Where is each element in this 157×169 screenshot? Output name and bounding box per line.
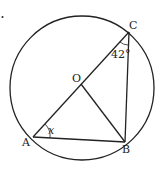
stray-dot <box>2 16 4 18</box>
label-O: O <box>72 72 81 85</box>
angle-arc-c <box>120 42 128 45</box>
label-angle-42: 42° <box>111 48 131 61</box>
label-A: A <box>21 136 31 149</box>
label-angle-x: x <box>48 124 55 137</box>
circle-geometry-diagram: A B C O x 42° <box>0 0 157 169</box>
label-C: C <box>129 19 137 32</box>
chord-AB <box>33 137 125 142</box>
radius-OB <box>81 84 125 142</box>
circle <box>10 16 154 160</box>
label-B: B <box>122 143 130 156</box>
